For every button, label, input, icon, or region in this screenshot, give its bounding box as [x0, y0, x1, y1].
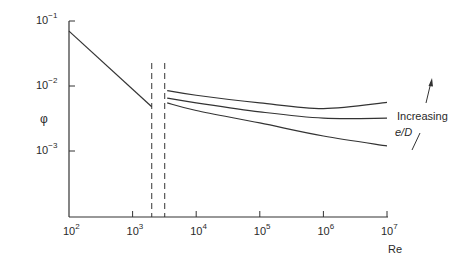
- x-tick-label: 106: [317, 223, 334, 237]
- series-line: [167, 91, 387, 109]
- y-tick-label: 10−1: [36, 12, 57, 26]
- x-axis-label: Re: [388, 243, 402, 255]
- x-tick-label: 103: [127, 223, 144, 237]
- x-ticks: [133, 211, 387, 217]
- transition-region-lines: [152, 63, 165, 217]
- y-tick-label: 10−3: [36, 142, 57, 156]
- x-tick-label: 105: [254, 223, 271, 237]
- x-tick-label: 102: [63, 223, 80, 237]
- series-line: [167, 98, 387, 118]
- series-line: [69, 31, 152, 107]
- y-tick-label: 10−2: [36, 77, 57, 91]
- annotation-e-over-d: e/D: [395, 126, 412, 138]
- y-ticks: [69, 21, 75, 151]
- x-tick-label: 107: [381, 223, 398, 237]
- data-series: [69, 31, 387, 146]
- x-tick-label: 104: [190, 223, 207, 237]
- series-line: [167, 103, 387, 146]
- y-axis-label: φ: [40, 112, 48, 126]
- annotation-increasing: Increasing: [397, 110, 448, 122]
